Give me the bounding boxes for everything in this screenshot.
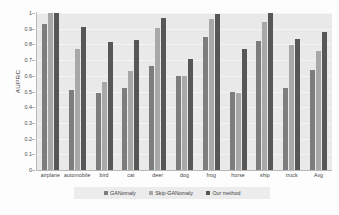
x-axis-tick-label: ship — [252, 172, 279, 178]
bar-group — [144, 13, 171, 170]
y-axis-tick-label: 1 — [0, 10, 32, 16]
bar-group — [171, 13, 198, 170]
x-axis-tick-label: automobile — [64, 172, 91, 178]
y-axis-tick-mark — [32, 13, 35, 14]
y-axis-tick-label: 0.6 — [0, 73, 32, 79]
bar — [310, 70, 315, 170]
x-axis-tick-label: dog — [171, 172, 198, 178]
bar — [108, 42, 113, 170]
bar — [256, 41, 261, 170]
bar — [230, 92, 235, 171]
bar — [322, 32, 327, 170]
x-axis-tick-label: horse — [225, 172, 252, 178]
y-axis-tick-mark — [32, 154, 35, 155]
x-axis-tick-label: airplane — [37, 172, 64, 178]
bar-group — [91, 13, 118, 170]
x-axis-tick-label: bird — [91, 172, 118, 178]
x-axis-tick-label: deer — [144, 172, 171, 178]
bar — [209, 19, 214, 170]
bar — [75, 49, 80, 170]
bar-group — [117, 13, 144, 170]
legend-item-ganomaly: GANomaly — [104, 190, 136, 196]
bar — [176, 76, 181, 170]
y-axis-tick-label: 0.4 — [0, 104, 32, 110]
y-axis-tick-mark — [32, 107, 35, 108]
legend-label: Our method — [212, 190, 240, 196]
bar — [268, 13, 273, 170]
bar — [48, 13, 53, 170]
x-axis-labels: airplaneautomobilebirdcatdeerdogfroghors… — [37, 172, 332, 178]
bar — [149, 66, 154, 170]
bar-group — [278, 13, 305, 170]
bar — [161, 18, 166, 170]
legend-swatch-icon — [206, 191, 210, 195]
x-axis-line — [36, 170, 332, 171]
x-axis-tick-label: Avg — [305, 172, 332, 178]
bar-group — [198, 13, 225, 170]
bar — [69, 90, 74, 170]
y-axis-tick-label: 0.2 — [0, 136, 32, 142]
legend-item-our-method: Our method — [206, 190, 240, 196]
bar — [81, 27, 86, 170]
y-axis-tick-mark — [32, 92, 35, 93]
bar — [155, 28, 160, 170]
bar-group — [225, 13, 252, 170]
bar — [283, 88, 288, 170]
bar — [295, 39, 300, 170]
y-axis-tick-label: 0.5 — [0, 89, 32, 95]
bar — [102, 82, 107, 170]
y-axis-tick-mark — [32, 170, 35, 171]
bar — [122, 88, 127, 170]
y-axis-tick-mark — [32, 44, 35, 45]
legend-swatch-icon — [104, 191, 108, 195]
y-axis-tick-mark — [32, 139, 35, 140]
bar — [289, 45, 294, 170]
bar — [96, 93, 101, 170]
bar — [54, 13, 59, 170]
legend-item-skip-ganomaly: Skip-GANomaly — [149, 190, 193, 196]
y-axis-tick-label: 0.1 — [0, 151, 32, 157]
x-axis-tick-label: frog — [198, 172, 225, 178]
bar — [128, 71, 133, 170]
chart-legend: GANomaly Skip-GANomaly Our method — [74, 187, 270, 199]
bar — [134, 40, 139, 170]
legend-label: Skip-GANomaly — [155, 190, 193, 196]
bar — [42, 24, 47, 170]
y-axis-tick-label: 0.9 — [0, 26, 32, 32]
bar — [316, 51, 321, 170]
bar — [215, 14, 220, 170]
y-axis-tick-mark — [32, 76, 35, 77]
bar-groups — [37, 13, 332, 170]
y-axis-tick-mark — [32, 60, 35, 61]
y-axis-ticks: 00.10.20.30.40.50.60.70.80.91 — [0, 0, 36, 215]
bar — [242, 49, 247, 170]
x-axis-tick-label: cat — [117, 172, 144, 178]
y-axis-tick-mark — [32, 29, 35, 30]
bar-group — [64, 13, 91, 170]
auprc-bar-chart: AUPRC 00.10.20.30.40.50.60.70.80.91 airp… — [0, 0, 339, 215]
bar — [262, 22, 267, 170]
y-axis-tick-label: 0.3 — [0, 120, 32, 126]
legend-label: GANomaly — [110, 190, 136, 196]
y-axis-tick-label: 0.8 — [0, 41, 32, 47]
y-axis-tick-label: 0.7 — [0, 57, 32, 63]
bar-group — [252, 13, 279, 170]
bar-group — [305, 13, 332, 170]
bar-group — [37, 13, 64, 170]
x-axis-tick-label: truck — [278, 172, 305, 178]
legend-swatch-icon — [149, 191, 153, 195]
y-axis-tick-mark — [32, 123, 35, 124]
bar — [182, 76, 187, 170]
bar — [203, 37, 208, 170]
bar — [236, 93, 241, 170]
y-axis-tick-label: 0 — [0, 167, 32, 173]
bar — [188, 59, 193, 170]
